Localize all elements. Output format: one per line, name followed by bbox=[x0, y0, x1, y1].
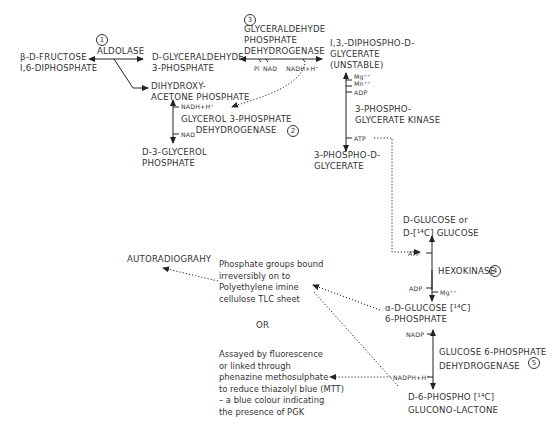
cofactor-pi: Pi bbox=[254, 65, 260, 72]
cofactor-mg-pgk: Mg⁺⁺ bbox=[354, 73, 371, 80]
cofactor-mg-hexokinase: Mg⁺⁺ bbox=[440, 289, 457, 296]
enzyme-glycerol-3p-dh: GLYCEROL 3-PHOSPHATE DEHYDROGENASE bbox=[181, 114, 292, 136]
or-label: OR bbox=[256, 320, 269, 331]
enzyme-aldolase: ALDOLASE bbox=[97, 46, 144, 57]
metabolite-glyceraldehyde-3p: D-GLYCERALDEHYDE 3-PHOSPHATE bbox=[152, 52, 244, 74]
metabolite-glucose-6-phosphate: α-D-GLUCOSE [¹⁴C] 6-PHOSPHATE bbox=[385, 303, 471, 325]
metabolite-bisphosphoglycerate: I,3,-DIPHOSPHO-D- GLYCERATE (UNSTABLE) bbox=[330, 38, 414, 71]
metabolite-fructose-bisphosphate: β-D-FRUCTOSE I,6-DIPHOSPHATE bbox=[20, 52, 97, 74]
metabolite-3-phosphoglycerate: 3-PHOSPHO-D- GLYCERATE bbox=[314, 150, 380, 172]
cofactor-nad-gapdh: NAD bbox=[263, 65, 277, 72]
enzyme-hexokinase: HEXOKINASE bbox=[438, 266, 495, 277]
cofactor-nadh-glycerol-dh: NADH+H⁺ bbox=[181, 103, 214, 110]
cofactor-nadph: NADPH+H⁺ bbox=[393, 374, 430, 381]
cofactor-adp-hexokinase: ADP bbox=[409, 285, 422, 292]
cofactor-atp-hexokinase: ATP bbox=[408, 250, 420, 257]
metabolite-glycerol-3p: D-3-GLYCEROL PHOSPHATE bbox=[142, 147, 207, 169]
cofactor-atp-pgk: ATP bbox=[354, 135, 366, 142]
autoradiography-label: AUTORADIOGRAHY bbox=[127, 254, 211, 265]
metabolite-dhap: DIHYDROXY- ACETONE PHOSPHATE bbox=[151, 81, 250, 103]
metabolite-glucose: D-GLUCOSE or D-[¹⁴C] GLUCOSE bbox=[403, 214, 479, 240]
enzyme-number-1: 1 bbox=[96, 34, 108, 46]
cofactor-nadh-gapdh: NADH+H⁺ bbox=[286, 65, 319, 72]
tlc-note: Phosphate groups bound irreversibly on t… bbox=[219, 259, 323, 305]
metabolite-phosphogluconolactone: D-6-PHOSPHO [¹⁴C] GLUCONO-LACTONE bbox=[408, 391, 498, 417]
enzyme-g6pdh: GLUCOSE 6-PHOSPHATE DEHYDROGENASE bbox=[439, 345, 546, 373]
cofactor-nadp: NADP bbox=[406, 331, 424, 338]
cofactor-nad-glycerol-dh: NAD bbox=[181, 131, 195, 138]
cofactor-mn-pgk: Mn⁺⁺ bbox=[354, 80, 371, 87]
assay-note: Assayed by fluorescence or linked throug… bbox=[219, 349, 344, 419]
enzyme-pgk: 3-PHOSPHO- GLYCERATE KINASE bbox=[355, 104, 440, 126]
cofactor-adp-pgk: ADP bbox=[354, 89, 367, 96]
enzyme-gapdh: GLYCERALDEHYDE PHOSPHATE DEHYDROGENASE bbox=[244, 24, 325, 57]
